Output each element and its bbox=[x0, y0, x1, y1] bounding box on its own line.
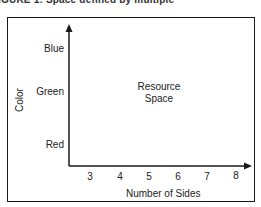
x-axis-arrowhead-icon bbox=[244, 163, 252, 170]
x-tick-4: 4 bbox=[113, 171, 127, 182]
y-tick-red: Red bbox=[14, 139, 64, 150]
annotation-line-2: Space bbox=[134, 93, 184, 105]
x-tick-3: 3 bbox=[83, 171, 97, 182]
annotation-line-1: Resource bbox=[134, 81, 184, 93]
y-axis-label: Color bbox=[14, 88, 25, 112]
y-tick-blue: Blue bbox=[14, 43, 64, 54]
x-tick-5: 5 bbox=[142, 171, 156, 182]
x-tick-6: 6 bbox=[171, 171, 185, 182]
axes bbox=[0, 0, 261, 207]
x-axis-label: Number of Sides bbox=[126, 188, 200, 199]
y-axis bbox=[66, 24, 73, 166]
x-tick-8: 8 bbox=[229, 170, 243, 181]
y-axis-arrowhead-icon bbox=[66, 24, 73, 32]
x-axis bbox=[69, 163, 252, 170]
resource-space-label: Resource Space bbox=[134, 81, 184, 105]
x-tick-7: 7 bbox=[200, 171, 214, 182]
